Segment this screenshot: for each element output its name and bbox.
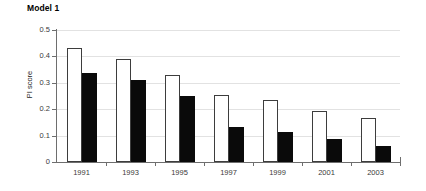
chart-figure: Model 1 PI score 00.10.20.30.40.51991199… bbox=[0, 0, 426, 191]
bar-1997-white-bar bbox=[214, 95, 229, 162]
bar-1995-black-bar bbox=[180, 96, 195, 162]
x-tick-label: 2003 bbox=[356, 168, 396, 177]
x-axis-line bbox=[56, 162, 401, 163]
x-tick-mark bbox=[155, 162, 156, 166]
x-tick-mark bbox=[204, 162, 205, 166]
y-tick-label: 0.3 bbox=[22, 78, 50, 87]
x-tick-label: 1991 bbox=[62, 168, 102, 177]
y-tick-mark bbox=[52, 162, 57, 163]
bar-1991-black-bar bbox=[82, 73, 97, 162]
y-tick-label: 0.4 bbox=[22, 51, 50, 60]
chart-title: Model 1 bbox=[27, 3, 59, 13]
x-tick-label: 1999 bbox=[258, 168, 298, 177]
x-tick-label: 2001 bbox=[307, 168, 347, 177]
bar-1993-white-bar bbox=[116, 59, 131, 162]
gridline bbox=[57, 83, 400, 84]
y-tick-mark bbox=[52, 30, 57, 31]
x-tick-label: 1995 bbox=[160, 168, 200, 177]
y-tick-mark bbox=[52, 136, 57, 137]
bar-1991-white-bar bbox=[67, 48, 82, 162]
bar-1999-white-bar bbox=[263, 100, 278, 162]
plot-area bbox=[57, 30, 400, 162]
y-tick-label: 0 bbox=[22, 157, 50, 166]
y-tick-label: 0.1 bbox=[22, 131, 50, 140]
x-tick-mark bbox=[400, 162, 401, 166]
x-tick-mark bbox=[351, 162, 352, 166]
bar-2003-white-bar bbox=[361, 118, 376, 162]
y-tick-mark bbox=[52, 109, 57, 110]
gridline bbox=[57, 56, 400, 57]
x-tick-label: 1997 bbox=[209, 168, 249, 177]
bar-1999-black-bar bbox=[278, 132, 293, 162]
y-tick-mark bbox=[52, 56, 57, 57]
x-tick-mark bbox=[106, 162, 107, 166]
y-tick-mark bbox=[52, 83, 57, 84]
y-tick-label: 0.5 bbox=[22, 25, 50, 34]
y-tick-label: 0.2 bbox=[22, 104, 50, 113]
bar-1995-white-bar bbox=[165, 75, 180, 162]
bar-1997-black-bar bbox=[229, 127, 244, 162]
bar-2003-black-bar bbox=[376, 146, 391, 162]
gridline bbox=[57, 109, 400, 110]
bar-2001-white-bar bbox=[312, 111, 327, 162]
x-tick-mark bbox=[253, 162, 254, 166]
bar-1993-black-bar bbox=[131, 80, 146, 162]
x-tick-label: 1993 bbox=[111, 168, 151, 177]
gridline bbox=[57, 30, 400, 31]
y-axis-line bbox=[56, 29, 57, 163]
x-tick-mark bbox=[302, 162, 303, 166]
bar-2001-black-bar bbox=[327, 139, 342, 162]
